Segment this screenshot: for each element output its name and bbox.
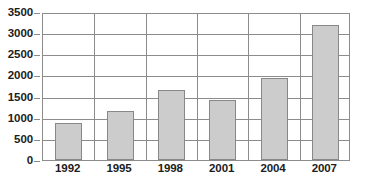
y-tick-label: 0 — [0, 155, 33, 167]
x-axis: 199219951998200120042007 — [42, 163, 350, 183]
y-tick-mark — [34, 119, 40, 120]
y-tick-mark — [34, 55, 40, 56]
y-tick-mark — [34, 13, 40, 14]
y-tick-mark — [34, 140, 40, 141]
x-tick-label: 2001 — [196, 163, 248, 175]
y-tick-label: 2500 — [0, 50, 33, 62]
y-tick-label: 3000 — [0, 28, 33, 40]
y-tick-mark — [34, 76, 40, 77]
y-tick-label: 3500 — [0, 7, 33, 19]
bar — [55, 123, 82, 160]
x-tick-label: 1998 — [144, 163, 196, 175]
y-tick-mark — [34, 98, 40, 99]
x-tick-label: 1992 — [42, 163, 94, 175]
y-tick-mark — [34, 161, 40, 162]
y-tick-label: 2000 — [0, 71, 33, 83]
x-tick-label: 2004 — [247, 163, 299, 175]
y-axis: 0500100015002000250030003500 — [0, 0, 42, 187]
bar — [209, 100, 236, 160]
plot-area — [42, 13, 350, 161]
y-tick-label: 500 — [0, 134, 33, 146]
y-tick-label: 1500 — [0, 92, 33, 104]
bars-layer — [43, 14, 349, 160]
bar — [107, 111, 134, 160]
bar — [158, 90, 185, 160]
x-tick-label: 2007 — [298, 163, 350, 175]
bar — [261, 78, 288, 160]
bar — [312, 25, 339, 160]
bar-chart: 0500100015002000250030003500 19921995199… — [0, 0, 366, 187]
y-tick-mark — [34, 34, 40, 35]
x-tick-label: 1995 — [93, 163, 145, 175]
y-tick-label: 1000 — [0, 113, 33, 125]
